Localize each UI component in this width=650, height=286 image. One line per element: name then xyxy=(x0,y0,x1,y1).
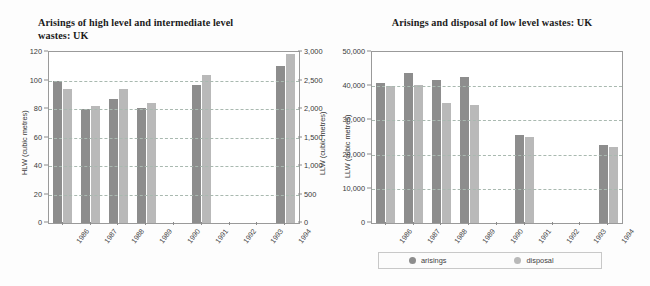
x-tick-mark xyxy=(229,222,230,225)
y-tick-label: 0 xyxy=(4,218,42,227)
x-tick-mark xyxy=(62,222,63,225)
x-tick-mark xyxy=(524,222,525,225)
y-tick-mark xyxy=(367,51,371,52)
x-tick-mark xyxy=(607,222,608,225)
x-tick-mark xyxy=(440,222,441,225)
chart-title-line2: wastes: UK xyxy=(38,30,89,41)
y-tick-label: 100 xyxy=(4,75,42,84)
y-tick-label-secondary: 0 xyxy=(304,218,308,227)
y-tick-mark xyxy=(367,119,371,120)
y-tick-mark xyxy=(367,153,371,154)
gridline xyxy=(372,189,622,190)
gridline xyxy=(372,120,622,121)
gridline xyxy=(49,81,299,82)
y-tick-mark xyxy=(44,108,48,109)
y-tick-label: 0 xyxy=(327,218,365,227)
y-tick-label: 40,000 xyxy=(327,81,365,90)
bar-disposal-1991 xyxy=(525,137,534,223)
y-tick-mark xyxy=(44,79,48,80)
x-tick-mark xyxy=(145,222,146,225)
legend-label-disposal: disposal xyxy=(526,256,553,265)
legend-swatch-disposal-icon xyxy=(514,257,521,264)
bar-arisings-1991 xyxy=(515,135,524,223)
x-tick-mark xyxy=(256,222,257,225)
bar-arisings-1986 xyxy=(376,83,385,223)
y-tick-label-secondary: 500 xyxy=(304,189,316,198)
bar-arisings-1986 xyxy=(53,81,62,224)
gridline xyxy=(372,86,622,87)
gridline xyxy=(49,166,299,167)
x-tick-label-1992: 1992 xyxy=(241,227,258,245)
y-tick-mark xyxy=(44,165,48,166)
y-tick-mark-secondary xyxy=(298,51,302,52)
bar-disposal-1989 xyxy=(470,105,479,223)
y-tick-mark xyxy=(367,222,371,223)
y-tick-mark-secondary xyxy=(298,108,302,109)
legend-swatch-arisings-icon xyxy=(409,257,416,264)
bar-arisings-1994 xyxy=(599,145,608,223)
x-tick-label-1994: 1994 xyxy=(296,227,313,245)
bar-arisings-1991 xyxy=(192,85,201,223)
bar-disposal-1994 xyxy=(609,147,618,223)
x-tick-mark xyxy=(117,222,118,225)
y-tick-mark xyxy=(44,136,48,137)
bar-disposal-1989 xyxy=(147,103,156,223)
y-tick-mark xyxy=(44,51,48,52)
x-tick-mark xyxy=(413,222,414,225)
y-tick-mark xyxy=(44,193,48,194)
gridline xyxy=(49,138,299,139)
x-tick-label-1990: 1990 xyxy=(185,227,202,245)
plot-area-hlw-ilw xyxy=(48,51,300,224)
legend: arisings disposal xyxy=(378,252,602,269)
x-tick-mark xyxy=(90,222,91,225)
x-tick-mark xyxy=(173,222,174,225)
gridline xyxy=(49,109,299,110)
x-tick-label-1989: 1989 xyxy=(157,227,174,245)
x-tick-mark xyxy=(284,222,285,225)
y-axis-label-hlw: HLW (cubic metres) xyxy=(20,110,29,175)
chart-title-llw-text: Arisings and disposal of low level waste… xyxy=(392,17,593,28)
y-tick-mark-secondary xyxy=(298,193,302,194)
bars-layer-llw xyxy=(372,52,622,223)
x-tick-label-1986: 1986 xyxy=(74,227,91,245)
bar-arisings-1994 xyxy=(276,66,285,223)
y-tick-label: 120 xyxy=(4,47,42,56)
legend-label-arisings: arisings xyxy=(421,256,446,265)
y-tick-mark-secondary xyxy=(298,222,302,223)
x-tick-mark xyxy=(552,222,553,225)
chart-title-llw: Arisings and disposal of low level waste… xyxy=(337,16,647,29)
y-tick-label-secondary: 2,500 xyxy=(304,75,323,84)
bar-disposal-1987 xyxy=(91,106,100,223)
y-tick-mark xyxy=(367,85,371,86)
x-tick-label-1993: 1993 xyxy=(268,227,285,245)
x-tick-mark xyxy=(579,222,580,225)
bar-arisings-1989 xyxy=(460,77,469,223)
bar-arisings-1988 xyxy=(109,99,118,223)
y-tick-label-secondary: 3,000 xyxy=(304,47,323,56)
x-tick-mark xyxy=(201,222,202,225)
chart-title-line1: Arisings of high level and intermediate … xyxy=(38,17,233,28)
y-tick-mark-secondary xyxy=(298,165,302,166)
figure-canvas: Arisings of high level and intermediate … xyxy=(0,0,650,286)
x-tick-mark xyxy=(468,222,469,225)
y-tick-label: 50,000 xyxy=(327,47,365,56)
chart-title-hlw-ilw: Arisings of high level and intermediate … xyxy=(38,16,288,42)
y-tick-label: 20 xyxy=(4,189,42,198)
y-tick-mark xyxy=(44,222,48,223)
bar-arisings-1987 xyxy=(404,73,413,223)
bar-disposal-1991 xyxy=(202,75,211,223)
chart-panel-hlw-ilw: Arisings of high level and intermediate … xyxy=(0,0,325,286)
legend-item-disposal[interactable]: disposal xyxy=(514,256,553,265)
x-tick-label-1987: 1987 xyxy=(102,227,119,245)
y-tick-mark-secondary xyxy=(298,79,302,80)
gridline xyxy=(372,155,622,156)
y-tick-mark-secondary xyxy=(298,136,302,137)
x-tick-label-1991: 1991 xyxy=(213,227,230,245)
gridline xyxy=(49,195,299,196)
y-tick-label: 10,000 xyxy=(327,183,365,192)
y-axis-label-llw: LLW (cubic metres) xyxy=(343,114,352,178)
x-tick-mark xyxy=(496,222,497,225)
legend-item-arisings[interactable]: arisings xyxy=(409,256,446,265)
x-tick-label-1988: 1988 xyxy=(130,227,147,245)
bar-arisings-1988 xyxy=(432,80,441,223)
